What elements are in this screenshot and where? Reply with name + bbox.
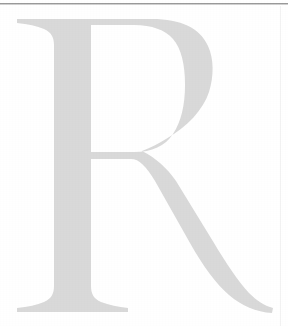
dropcap-letter-r [0, 0, 288, 326]
dropcap-glyph-path [17, 19, 273, 313]
page-canvas: R [0, 0, 288, 326]
dropcap-glyph-svg [0, 0, 288, 326]
